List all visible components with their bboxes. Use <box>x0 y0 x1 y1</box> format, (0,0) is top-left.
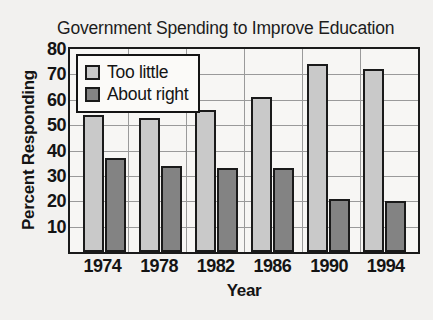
legend-swatch-icon <box>85 65 100 80</box>
x-axis-tick-label: 1978 <box>131 256 188 277</box>
y-axis-tick-label: 30 <box>20 165 66 186</box>
y-axis-tick-label: 10 <box>20 216 66 237</box>
chart-figure: Government Spending to Improve Education… <box>0 0 433 320</box>
bar <box>251 97 272 252</box>
y-axis-tick-label: 70 <box>20 64 66 85</box>
legend-item: Too little <box>85 61 188 83</box>
legend: Too littleAbout right <box>76 54 200 113</box>
bar <box>105 158 126 252</box>
bar <box>161 166 182 252</box>
bar <box>273 168 294 252</box>
legend-swatch-icon <box>85 87 100 102</box>
bar-group <box>244 49 300 252</box>
bar <box>363 69 384 252</box>
x-axis-tick-label: 1986 <box>244 256 301 277</box>
y-axis-tick-label: 20 <box>20 191 66 212</box>
x-axis-tick-label: 1974 <box>74 256 131 277</box>
legend-label: Too little <box>107 62 168 83</box>
legend-label: About right <box>107 84 188 105</box>
y-axis-tick-label: 60 <box>20 89 66 110</box>
y-axis-tick-label: 40 <box>20 140 66 161</box>
x-axis-title: Year <box>68 281 420 301</box>
chart-title: Government Spending to Improve Education <box>57 18 433 39</box>
bar <box>83 115 104 252</box>
bar-group <box>356 49 412 252</box>
x-axis-tick-label: 1990 <box>301 256 358 277</box>
bar <box>307 64 328 252</box>
bar <box>385 201 406 252</box>
legend-item: About right <box>85 83 188 105</box>
x-axis-tick-labels: 197419781982198619901994 <box>68 256 420 277</box>
bar <box>329 199 350 252</box>
bar <box>195 110 216 252</box>
y-axis-tick-label: 50 <box>20 115 66 136</box>
bar <box>139 118 160 252</box>
x-axis-tick-label: 1982 <box>187 256 244 277</box>
bar <box>217 168 238 252</box>
y-axis-tick-labels: 8070605040302010 <box>20 0 66 320</box>
bar-group <box>300 49 356 252</box>
x-axis-tick-label: 1994 <box>357 256 414 277</box>
y-axis-tick-label: 80 <box>20 39 66 60</box>
